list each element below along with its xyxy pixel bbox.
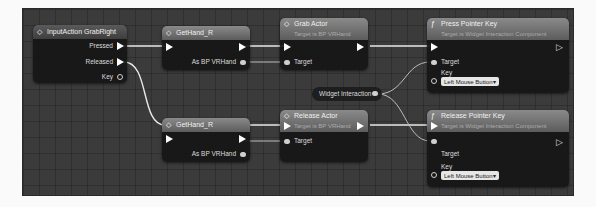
function-icon: ◇ — [284, 18, 289, 30]
function-icon: ƒ — [431, 110, 435, 122]
exec-out-pin[interactable]: ▷ — [556, 137, 563, 147]
node-subtitle: Target is BP VRHand — [294, 30, 368, 38]
key-label: Key — [102, 73, 113, 80]
released-exec-pin[interactable] — [117, 58, 124, 66]
target-pin[interactable] — [284, 60, 290, 65]
exec-in-pin[interactable] — [166, 43, 173, 51]
exec-out-pin[interactable] — [357, 43, 364, 51]
key-value: Left Mouse Button — [444, 79, 493, 85]
key-label: Key — [441, 163, 452, 170]
node-title: Press Pointer Key — [441, 20, 497, 27]
key-pin[interactable] — [431, 172, 437, 178]
output-pin[interactable] — [240, 60, 246, 65]
function-icon: ◇ — [166, 26, 171, 40]
key-value: Left Mouse Button — [444, 173, 493, 179]
exec-out-pin[interactable] — [357, 122, 364, 130]
function-icon: ◇ — [284, 110, 289, 122]
output-label: As BP VRHand — [192, 150, 236, 157]
get-hand-bottom-node[interactable]: ◇GetHand_R As BP VRHand — [162, 118, 250, 162]
key-label: Key — [441, 69, 452, 76]
target-label: Target — [294, 58, 312, 65]
target-pin[interactable] — [431, 139, 437, 144]
node-title: Release Pointer Key — [441, 112, 505, 119]
release-pointer-key-node[interactable]: ƒRelease Pointer KeyTarget is Widget Int… — [427, 110, 569, 187]
node-title: Grab Actor — [294, 20, 327, 27]
key-pin[interactable] — [117, 74, 123, 80]
grab-actor-node[interactable]: ◇Grab ActorTarget is BP VRHand Target — [280, 18, 368, 70]
widget-interaction-variable[interactable]: Widget Interaction — [312, 87, 382, 101]
function-icon: ◇ — [166, 118, 171, 132]
get-hand-top-node[interactable]: ◇GetHand_R As BP VRHand — [162, 26, 250, 70]
exec-in-pin[interactable] — [166, 135, 173, 143]
variable-label: Widget Interaction — [319, 90, 371, 97]
release-actor-node[interactable]: ◇Release ActorTarget is BP VRHand Target — [280, 110, 368, 162]
target-pin[interactable] — [431, 60, 437, 65]
chevron-down-icon: ▾ — [493, 79, 496, 85]
pressed-label: Pressed — [89, 42, 113, 49]
released-label: Released — [86, 58, 113, 65]
exec-in-pin[interactable] — [431, 122, 438, 130]
node-title: GetHand_R — [176, 121, 213, 128]
node-title: Release Actor — [294, 112, 338, 119]
key-pin[interactable] — [431, 78, 437, 84]
pressed-exec-pin[interactable] — [117, 42, 124, 50]
node-title: InputAction GrabRight — [47, 28, 116, 35]
output-label: As BP VRHand — [192, 58, 236, 65]
exec-out-pin[interactable] — [239, 135, 246, 143]
output-pin[interactable] — [240, 152, 246, 157]
node-subtitle: Target is Widget Interaction Component — [441, 30, 569, 38]
function-icon: ƒ — [431, 18, 435, 30]
input-action-node[interactable]: ◇InputAction GrabRight Pressed Released … — [33, 25, 127, 83]
variable-output-pin[interactable] — [372, 91, 378, 96]
target-label: Target — [294, 137, 312, 144]
press-pointer-key-node[interactable]: ƒPress Pointer KeyTarget is Widget Inter… — [427, 18, 569, 93]
target-label: Target — [441, 150, 459, 157]
event-icon: ◇ — [37, 25, 42, 39]
chevron-down-icon: ▾ — [493, 173, 496, 179]
exec-out-pin[interactable] — [239, 43, 246, 51]
exec-in-pin[interactable] — [431, 43, 438, 51]
exec-out-pin[interactable]: ▷ — [556, 42, 563, 52]
node-subtitle: Target is Widget Interaction Component — [441, 122, 569, 130]
target-pin[interactable] — [284, 139, 290, 144]
exec-in-pin[interactable] — [284, 43, 291, 51]
key-dropdown[interactable]: Left Mouse Button▾ — [441, 171, 499, 180]
exec-in-pin[interactable] — [284, 122, 291, 130]
target-label: Target — [441, 58, 459, 65]
key-dropdown[interactable]: Left Mouse Button▾ — [441, 77, 499, 86]
node-title: GetHand_R — [176, 29, 213, 36]
